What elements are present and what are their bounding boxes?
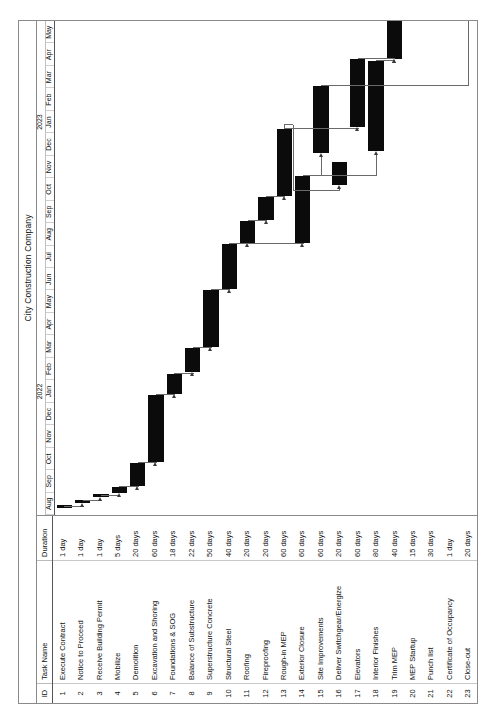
table-row[interactable]: 21Punch list30 days (422, 516, 440, 703)
column-header-taskname: Task Name (37, 560, 52, 683)
gantt-bar[interactable] (203, 290, 218, 346)
month-label: Sep (45, 475, 52, 487)
cell-taskname: Exterior Closure (293, 560, 311, 683)
dependency-arrow-icon (227, 289, 231, 293)
month-gridline (46, 334, 54, 335)
month-label: Sep (45, 206, 52, 218)
cell-taskname: Mobilize (108, 560, 126, 683)
dependency-arrow-icon (282, 196, 286, 200)
gantt-bar[interactable] (148, 395, 163, 462)
cell-duration: 1 day (440, 516, 458, 560)
cell-taskname: Notice to Proceed (71, 560, 89, 683)
month-gridline (46, 267, 54, 268)
cell-duration: 60 days (293, 516, 311, 560)
month-label: Dec (45, 408, 52, 420)
cell-id: 11 (237, 683, 255, 703)
gantt-bar[interactable] (277, 129, 292, 196)
month-gridline (46, 379, 54, 380)
cell-taskname: Excavation and Shoring (145, 560, 163, 683)
cell-duration: 22 days (182, 516, 200, 560)
table-row[interactable]: 8Balance of Substructure22 days (182, 516, 200, 703)
gantt-bar[interactable] (130, 463, 145, 485)
dependency-link-horizontal (339, 189, 340, 191)
gantt-bar[interactable] (387, 21, 402, 59)
cell-duration: 60 days (348, 516, 366, 560)
cell-taskname: Punch list (422, 560, 440, 683)
month-gridline (46, 469, 54, 470)
gantt-bar[interactable] (295, 176, 310, 243)
gantt-bar[interactable] (167, 374, 182, 394)
cell-id: 16 (330, 683, 348, 703)
column-header-id: ID (37, 683, 52, 703)
cell-duration: 1 day (71, 516, 89, 560)
table-header-row: ID Task Name Duration (37, 516, 53, 703)
table-row[interactable]: 13Rough-in MEP60 days (274, 516, 292, 703)
dependency-link-horizontal (376, 155, 377, 176)
cell-duration: 20 days (459, 516, 477, 560)
dependency-link-vertical (284, 128, 357, 129)
table-row[interactable]: 4Mobilize5 days (108, 516, 126, 703)
month-gridline (46, 87, 54, 88)
month-gridline (46, 447, 54, 448)
column-header-duration: Duration (37, 516, 52, 560)
dependency-link-vertical (321, 85, 468, 86)
month-label: Aug (45, 228, 52, 240)
cell-taskname: Rough-in MEP (274, 560, 292, 683)
cell-taskname: Fireproofing (256, 560, 274, 683)
cell-taskname: MEP Startup (403, 560, 421, 683)
cell-duration: 18 days (164, 516, 182, 560)
dependency-arrow-icon (264, 220, 268, 224)
table-row[interactable]: 3Receive Building Permit1 day (90, 516, 108, 703)
table-row[interactable]: 10Structural Steel40 days (219, 516, 237, 703)
dependency-link-vertical (229, 243, 302, 244)
gantt-bar[interactable] (350, 59, 365, 126)
table-row[interactable]: 12Fireproofing20 days (256, 516, 274, 703)
gantt-chart: 20222023 AugSepOctNovDecJanFebMarAprMayJ… (37, 21, 477, 515)
table-row[interactable]: 1Execute Contract1 day (53, 516, 71, 703)
month-label: Feb (45, 94, 52, 106)
dependency-arrow-icon (208, 347, 212, 351)
month-label: Mar (45, 341, 52, 353)
table-row[interactable]: 11Roofing20 days (237, 516, 255, 703)
table-row[interactable]: 16Deliver Switchgear/Energize20 days (330, 516, 348, 703)
gantt-bar[interactable] (185, 348, 200, 373)
cell-duration: 60 days (311, 516, 329, 560)
table-row[interactable]: 5Demolition20 days (127, 516, 145, 703)
cell-duration: 60 days (145, 516, 163, 560)
gantt-bar[interactable] (258, 197, 273, 219)
cell-id: 5 (127, 683, 145, 703)
table-row[interactable]: 6Excavation and Shoring60 days (145, 516, 163, 703)
table-row[interactable]: 18Interior Finishes80 days (366, 516, 384, 703)
table-row[interactable]: 2Notice to Proceed1 day (71, 516, 89, 703)
year-label: 2023 (36, 114, 43, 130)
cell-id: 3 (90, 683, 108, 703)
gantt-bar[interactable] (332, 162, 347, 184)
dependency-arrow-icon (190, 372, 194, 376)
table-body: 1Execute Contract1 day2Notice to Proceed… (53, 516, 477, 703)
table-row[interactable]: 23Close-out20 days (459, 516, 477, 703)
month-gridline (46, 65, 54, 66)
cell-id: 14 (293, 683, 311, 703)
cell-taskname: Demolition (127, 560, 145, 683)
report-title-row: City Construction Company (19, 21, 37, 703)
dependency-arrow-icon (135, 486, 139, 490)
month-label: Jan (45, 116, 52, 127)
table-row[interactable]: 9Superstructure Concrete50 days (201, 516, 219, 703)
cell-taskname: Deliver Switchgear/Energize (330, 560, 348, 683)
cell-taskname: Certificate of Occupancy (440, 560, 458, 683)
month-gridline (46, 245, 54, 246)
table-row[interactable]: 14Exterior Closure60 days (293, 516, 311, 703)
month-label: Oct (45, 184, 52, 195)
gantt-bar[interactable] (368, 61, 383, 151)
table-row[interactable]: 20MEP Startup15 days (403, 516, 421, 703)
table-row[interactable]: 22Certificate of Occupancy1 day (440, 516, 458, 703)
table-row[interactable]: 19Trim MEP40 days (385, 516, 403, 703)
gantt-bar[interactable] (240, 221, 255, 243)
gantt-bar[interactable] (222, 244, 237, 289)
table-row[interactable]: 7Foundations & SOG18 days (164, 516, 182, 703)
table-row[interactable]: 15Site Improvements60 days (311, 516, 329, 703)
table-row[interactable]: 17Elevators60 days (348, 516, 366, 703)
dependency-arrow-icon (355, 127, 359, 131)
gantt-bar[interactable] (313, 86, 328, 153)
month-label: Jan (45, 386, 52, 397)
